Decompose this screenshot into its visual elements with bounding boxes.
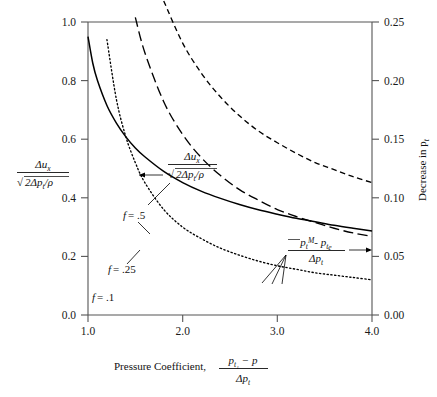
curve-label-f025: f= .25 <box>108 250 140 275</box>
data-curves <box>88 1 372 280</box>
xtick-label-3: 4.0 <box>365 325 380 337</box>
velocity-ratio-callout: Δux √ 2Δpt/ρ <box>139 150 217 205</box>
curve-f-0-1 <box>107 40 372 280</box>
left-axis-radical: √ <box>17 176 24 188</box>
xtick-label-1: 2.0 <box>176 325 191 337</box>
right-axis-ticks: 0.00 0.05 0.10 0.15 0.20 0.25 <box>372 16 404 321</box>
curve-label-f05: f= .5 <box>123 209 150 234</box>
y2tick-label-4: 0.20 <box>384 75 404 87</box>
x-axis-numerator: pt₁− p <box>228 354 258 369</box>
callout-pressure-numerator: ptM- pte <box>299 236 332 253</box>
y2tick-label-0: 0.00 <box>384 309 404 321</box>
x-axis-ticks: 1.0 2.0 3.0 4.0 <box>81 315 380 337</box>
right-axis-title: Decrease in pt <box>416 138 431 201</box>
curve-label-f01-text: f= .1 <box>92 291 114 303</box>
left-axis-title: Δux √ 2Δpt/ρ <box>17 158 69 191</box>
callout-pressure-denominator: Δpt <box>308 252 324 267</box>
x-axis-title: Pressure Coefficient, pt₁− p Δpt <box>114 354 268 387</box>
ytick-label-4: 0.8 <box>62 75 77 87</box>
callout-velocity-radical: √ <box>168 168 175 180</box>
curve-label-f05-leader <box>138 222 150 234</box>
ytick-label-5: 1.0 <box>62 16 77 28</box>
figure-root: 0.0 0.2 0.4 0.6 0.8 1.0 0.00 0.05 0.10 0… <box>0 0 437 397</box>
ytick-label-3: 0.6 <box>62 133 77 145</box>
y2tick-label-5: 0.25 <box>384 16 404 28</box>
callout-velocity-numerator: Δux <box>183 150 200 165</box>
callout-velocity-leader <box>148 183 170 205</box>
curve-label-f05-text: f= .5 <box>123 209 146 221</box>
curve-label-f025-text: f= .25 <box>108 263 136 275</box>
y2tick-label-1: 0.05 <box>384 250 404 262</box>
ytick-label-0: 0.0 <box>62 309 77 321</box>
ytick-label-1: 0.2 <box>62 250 77 262</box>
total-pressure-callout: ptM- pte Δpt <box>262 236 372 285</box>
y2tick-label-2: 0.10 <box>384 192 404 204</box>
curve-label-f025-leader <box>127 250 140 264</box>
y2tick-label-3: 0.15 <box>384 133 404 145</box>
xtick-label-2: 3.0 <box>270 325 285 337</box>
curve-velocity-ratio <box>88 37 372 231</box>
left-axis-denominator: 2Δpt/ρ <box>25 176 53 191</box>
callout-pressure-arrow-head <box>366 247 372 252</box>
right-axis-title-text: Decrease in pt <box>416 138 431 201</box>
left-axis-numerator: Δux <box>34 158 51 173</box>
left-axis-ticks: 0.0 0.2 0.4 0.6 0.8 1.0 <box>62 16 88 321</box>
chart-svg: 0.0 0.2 0.4 0.6 0.8 1.0 0.00 0.05 0.10 0… <box>0 0 437 397</box>
xtick-label-0: 1.0 <box>81 325 96 337</box>
curve-label-f01: f= .1 <box>92 291 114 303</box>
x-axis-title-prefix: Pressure Coefficient, <box>114 360 206 372</box>
callout-velocity-denominator: 2Δpt/ρ <box>176 168 204 183</box>
x-axis-denominator: Δpt <box>235 372 251 387</box>
ytick-label-2: 0.4 <box>62 192 77 204</box>
